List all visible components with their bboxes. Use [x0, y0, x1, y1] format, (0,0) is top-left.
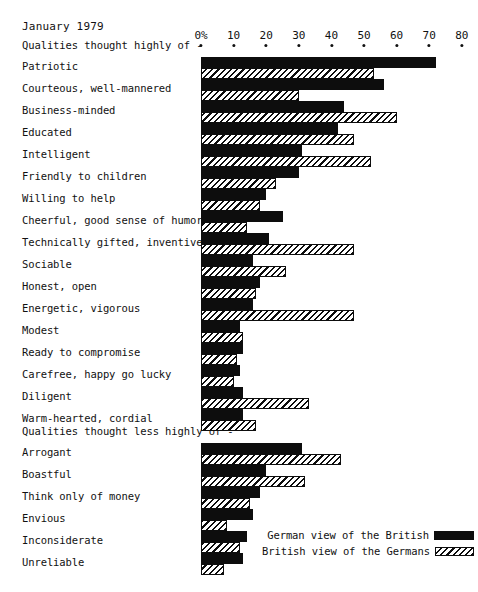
bar-british-view	[201, 564, 224, 575]
bar-british-view	[201, 476, 305, 487]
bar-british-view	[201, 520, 227, 531]
category-label: Warm-hearted, cordial	[22, 413, 153, 424]
bar-british-view	[201, 266, 286, 277]
bar-british-view	[201, 200, 260, 211]
bar-german-view	[201, 255, 253, 266]
category-label: Friendly to children	[22, 171, 146, 182]
plot-area	[201, 0, 478, 592]
category-label: Willing to help	[22, 193, 115, 204]
category-label: Educated	[22, 127, 72, 138]
bar-british-view	[201, 498, 250, 509]
bar-german-view	[201, 101, 344, 112]
category-label: Patriotic	[22, 61, 78, 72]
category-label: Technically gifted, inventive	[22, 237, 202, 248]
bar-german-view	[201, 189, 266, 200]
bar-british-view	[201, 68, 374, 79]
bar-british-view	[201, 454, 341, 465]
bar-british-view	[201, 178, 276, 189]
bar-german-view	[201, 553, 243, 564]
legend-swatch-hatch	[435, 547, 474, 556]
category-label: Envious	[22, 513, 66, 524]
legend-label: British view of the Germans	[262, 545, 430, 557]
bar-british-view	[201, 134, 354, 145]
bar-chart: January 1979 0%1020304050607080 Qualitie…	[0, 0, 478, 592]
bar-german-view	[201, 465, 266, 476]
bar-german-view	[201, 365, 240, 376]
category-label: Carefree, happy go lucky	[22, 369, 171, 380]
legend-label: German view of the British	[267, 529, 429, 541]
category-label: Cheerful, good sense of humor	[22, 215, 202, 226]
bar-german-view	[201, 299, 253, 310]
bar-british-view	[201, 420, 256, 431]
bar-german-view	[201, 167, 299, 178]
bar-german-view	[201, 509, 253, 520]
bar-british-view	[201, 542, 240, 553]
bar-german-view	[201, 343, 243, 354]
category-label: Sociable	[22, 259, 72, 270]
bar-german-view	[201, 487, 260, 498]
bar-british-view	[201, 222, 247, 233]
legend-item: British view of the Germans	[262, 544, 474, 558]
bar-british-view	[201, 288, 256, 299]
bar-british-view	[201, 90, 299, 101]
category-label: Unreliable	[22, 557, 84, 568]
bar-german-view	[201, 321, 240, 332]
bar-german-view	[201, 79, 384, 90]
bar-german-view	[201, 123, 338, 134]
category-label: Inconsiderate	[22, 535, 103, 546]
bar-british-view	[201, 398, 309, 409]
bar-british-view	[201, 156, 371, 167]
bar-german-view	[201, 233, 269, 244]
category-label: Diligent	[22, 391, 72, 402]
bar-german-view	[201, 277, 260, 288]
bar-german-view	[201, 443, 302, 454]
bar-german-view	[201, 145, 302, 156]
bar-german-view	[201, 57, 436, 68]
category-label-column: Qualities thought highly of -Qualities t…	[22, 0, 200, 592]
bar-german-view	[201, 211, 283, 222]
category-label: Business-minded	[22, 105, 115, 116]
chart-legend: German view of the BritishBritish view o…	[262, 528, 474, 560]
category-label: Honest, open	[22, 281, 97, 292]
bar-british-view	[201, 376, 234, 387]
bar-german-view	[201, 531, 247, 542]
category-label: Arrogant	[22, 447, 72, 458]
category-label: Ready to compromise	[22, 347, 140, 358]
category-label: Energetic, vigorous	[22, 303, 140, 314]
category-label: Modest	[22, 325, 59, 336]
bar-british-view	[201, 310, 354, 321]
bar-german-view	[201, 387, 243, 398]
bar-british-view	[201, 244, 354, 255]
legend-swatch-black	[434, 531, 474, 540]
bar-german-view	[201, 409, 243, 420]
category-label: Intelligent	[22, 149, 90, 160]
section-title-positive: Qualities thought highly of -	[22, 40, 202, 51]
legend-item: German view of the British	[262, 528, 474, 542]
category-label: Boastful	[22, 469, 72, 480]
category-label: Courteous, well-mannered	[22, 83, 171, 94]
bar-british-view	[201, 332, 243, 343]
category-label: Think only of money	[22, 491, 140, 502]
bar-british-view	[201, 354, 237, 365]
bar-british-view	[201, 112, 397, 123]
